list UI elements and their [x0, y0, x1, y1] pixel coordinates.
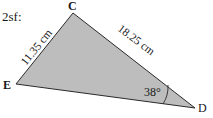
vertex-label-e: E: [3, 78, 11, 92]
angle-label-d: 38°: [144, 85, 161, 99]
vertex-label-d: D: [198, 101, 207, 115]
vertex-label-c: C: [68, 0, 77, 13]
question-label: 2sf:: [2, 9, 22, 24]
triangle-diagram: 2sf: C E D 11.35 cm 18.25 cm 38°: [0, 0, 213, 118]
triangle-ced: [16, 13, 195, 108]
